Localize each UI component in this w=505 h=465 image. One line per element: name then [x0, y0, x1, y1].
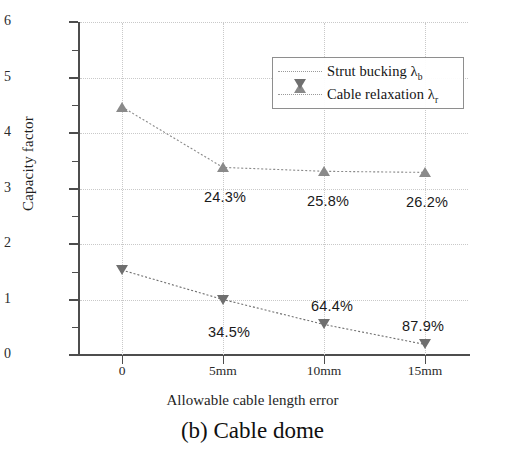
- series-line-0: [122, 107, 425, 172]
- figure-cable-dome: 012345605mm10mm15mm 24.3%25.8%26.2%34.5%…: [0, 0, 505, 465]
- y-tick-major: [69, 21, 78, 23]
- y-tick-label: 6: [0, 14, 11, 28]
- gridline-h: [80, 133, 468, 134]
- x-axis-title: Allowable cable length error: [0, 392, 505, 409]
- x-tick-label: 10mm: [289, 364, 359, 378]
- x-tick-label: 5mm: [188, 364, 258, 378]
- data-point-marker: [318, 319, 330, 329]
- data-point-label: 25.8%: [307, 193, 349, 209]
- y-tick-major: [69, 188, 78, 190]
- x-tick-label: 15mm: [390, 364, 460, 378]
- gridline-h: [80, 244, 468, 245]
- triangle-down-icon: [294, 79, 306, 106]
- data-point-marker: [217, 295, 229, 305]
- data-point-label: 26.2%: [406, 194, 448, 210]
- data-point-marker: [116, 102, 128, 112]
- data-point-label: 87.9%: [402, 318, 444, 334]
- y-tick-major: [69, 77, 78, 79]
- y-tick-minor: [72, 216, 78, 217]
- data-point-marker: [217, 162, 229, 172]
- y-tick-minor: [72, 272, 78, 273]
- y-tick-major: [69, 299, 78, 301]
- y-tick-minor: [72, 161, 78, 162]
- triangle-up-icon: [116, 102, 128, 112]
- y-tick-label: 3: [0, 181, 11, 195]
- legend-box: Strut bucking λb Cable relaxation λr: [272, 57, 464, 109]
- triangle-down-icon: [217, 295, 229, 305]
- y-tick-label: 5: [0, 70, 11, 84]
- data-point-label: 24.3%: [204, 189, 246, 205]
- gridline-v: [122, 23, 123, 355]
- legend-label-strut-bucking: Strut bucking λb: [327, 63, 423, 82]
- legend-label-cable-relaxation: Cable relaxation λr: [327, 86, 438, 105]
- legend-item-cable-relaxation[interactable]: Cable relaxation λr: [273, 83, 465, 107]
- figure-caption: (b) Cable dome: [0, 418, 505, 444]
- gridline-h: [80, 189, 468, 190]
- y-tick-minor: [72, 105, 78, 106]
- y-tick-minor: [72, 50, 78, 51]
- legend-key-cable-relaxation: [273, 85, 327, 105]
- data-point-marker: [116, 265, 128, 275]
- triangle-up-icon: [419, 167, 431, 177]
- y-tick-major: [69, 243, 78, 245]
- x-axis-line: [78, 354, 470, 356]
- triangle-down-icon: [419, 339, 431, 349]
- y-tick-major: [69, 132, 78, 134]
- y-tick-minor: [72, 327, 78, 328]
- y-axis-title: Capacity factor: [20, 94, 37, 234]
- series-line-1: [122, 270, 425, 344]
- data-point-marker: [419, 167, 431, 177]
- gridline-h: [80, 22, 468, 23]
- triangle-down-icon: [116, 265, 128, 275]
- data-point-label: 34.5%: [208, 324, 250, 340]
- y-tick-label: 4: [0, 125, 11, 139]
- gridline-h: [80, 300, 468, 301]
- triangle-down-icon: [318, 319, 330, 329]
- data-point-marker: [318, 166, 330, 176]
- x-tick-label: 0: [87, 364, 157, 378]
- data-point-marker: [419, 339, 431, 349]
- triangle-up-icon: [318, 166, 330, 176]
- y-tick-major: [69, 354, 78, 356]
- data-point-label: 64.4%: [311, 298, 353, 314]
- y-tick-label: 2: [0, 236, 11, 250]
- y-tick-label: 0: [0, 347, 11, 361]
- triangle-up-icon: [217, 162, 229, 172]
- y-tick-label: 1: [0, 292, 11, 306]
